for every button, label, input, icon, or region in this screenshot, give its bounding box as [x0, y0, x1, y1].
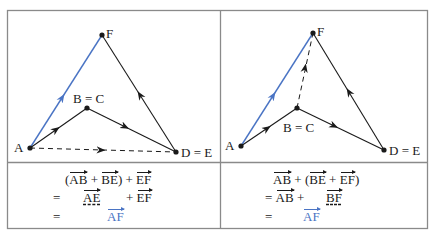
right-eq-line1: AB + (BE + EF) [273, 172, 359, 188]
vector-ae-dashed [30, 148, 176, 152]
equals: = [53, 209, 60, 224]
point-de [381, 147, 386, 152]
vector-ab [30, 108, 87, 148]
left-eq-line1: (AB + BE) + EF [65, 172, 151, 188]
left-eq-line3: = [53, 209, 60, 225]
point-a [27, 145, 32, 150]
label-f: F [106, 26, 113, 41]
plus: + [87, 172, 101, 187]
plus: + [122, 172, 136, 187]
left-eq-line2: = [53, 190, 60, 206]
point-de [173, 149, 178, 154]
vector-af: AF [303, 209, 320, 225]
point-bc [294, 105, 299, 110]
paren: ) [355, 172, 359, 187]
right-eq-line3: = [265, 209, 272, 225]
vector-af: AF [107, 209, 124, 225]
right-eq-line3-result: AF [303, 209, 320, 225]
right-eq-line2-bf: BF [326, 190, 342, 206]
label-bc: B = C [283, 120, 314, 135]
point-a [238, 143, 243, 148]
right-eq-line2: = AB + [265, 190, 304, 206]
label-a: A [14, 140, 24, 155]
point-bc [84, 105, 89, 110]
vector-be: BE [309, 172, 326, 188]
label-de: D = E [389, 143, 420, 158]
point-f [310, 30, 315, 35]
right-diagram: F B = C A D = E [225, 24, 420, 158]
plus-paren: + ( [291, 172, 309, 187]
left-eq-line2-rest: + EF [126, 190, 152, 206]
equals: = [53, 190, 60, 205]
vector-ab: AB [273, 172, 291, 188]
label-a: A [225, 138, 235, 153]
left-eq-line3-result: AF [107, 209, 124, 225]
equals: = [265, 209, 272, 224]
vector-ef: EF [340, 172, 355, 188]
plus: + [126, 190, 137, 205]
vector-ab: AB [276, 190, 294, 206]
vector-ab: AB [69, 172, 87, 188]
left-eq-line2-terms: AE [83, 190, 100, 206]
vector-addition-figure: F B = C A D = E F B = C A D = E [0, 0, 434, 236]
point-f [99, 32, 104, 37]
vector-ef: EF [136, 172, 151, 188]
vector-ef [102, 35, 176, 152]
label-de: D = E [181, 145, 212, 160]
plus: + [326, 172, 340, 187]
vector-ae: AE [83, 190, 100, 206]
vector-be: BE [101, 172, 118, 188]
label-f: F [317, 24, 324, 39]
plus: + [294, 190, 305, 205]
vector-ef: EF [137, 190, 152, 206]
label-bc: B = C [73, 91, 104, 106]
left-diagram: F B = C A D = E [14, 26, 212, 160]
equals: = [265, 190, 276, 205]
vector-bf: BF [326, 190, 342, 206]
vector-bf-dashed [297, 33, 313, 108]
